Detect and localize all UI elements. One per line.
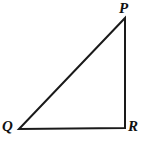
- geometry-figure: P Q R: [0, 0, 150, 147]
- vertex-label-q: Q: [2, 119, 13, 134]
- triangle-pqr: [19, 18, 125, 129]
- vertex-label-r: R: [128, 119, 138, 134]
- vertex-label-p: P: [119, 1, 128, 16]
